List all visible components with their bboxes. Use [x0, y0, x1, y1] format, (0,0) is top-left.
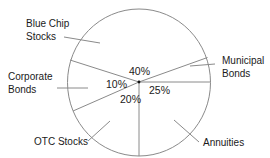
pct-blue-chip: 40% — [129, 66, 150, 77]
pct-annuities: 25% — [149, 85, 170, 96]
label-municipal-bonds: Municipal Bonds — [222, 55, 264, 80]
pct-otc: 20% — [120, 94, 141, 105]
label-line: Corporate — [8, 71, 52, 84]
label-corporate-bonds: Corporate Bonds — [8, 71, 52, 96]
label-otc-stocks: OTC Stocks — [34, 136, 88, 149]
label-line: Bonds — [222, 68, 264, 81]
label-line: Bonds — [8, 84, 52, 97]
pct-corporate: 10% — [106, 79, 127, 90]
pie-center — [138, 81, 141, 84]
label-annuities: Annuities — [203, 137, 244, 150]
label-line: Municipal — [222, 55, 264, 68]
label-line: Stocks — [26, 31, 69, 44]
label-blue-chip-stocks: Blue Chip Stocks — [26, 18, 69, 43]
label-line: Blue Chip — [26, 18, 69, 31]
